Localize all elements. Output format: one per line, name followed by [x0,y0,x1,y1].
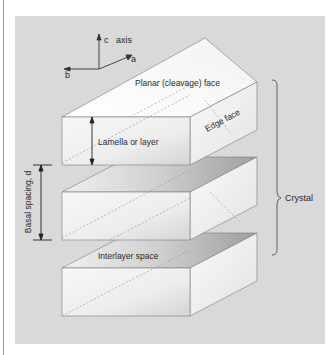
block-bottom-front-face [62,268,190,316]
planar-face-label: Planar (cleavage) face [135,78,220,88]
c-axis-arrowhead-icon [97,34,101,40]
arrow-down-icon [39,234,43,240]
a-axis-label: a [131,54,136,64]
axis-label: axis [116,35,133,45]
interlayer-space-label: Interlayer space [98,251,159,261]
block-middle-front-face [62,192,190,240]
crystal-label: Crystal [285,193,313,203]
c-axis-label: c [104,35,109,45]
lamella-label: Lamella or layer [98,137,159,147]
block-bottom [62,233,257,316]
block-top [62,38,257,165]
a-axis-line [99,57,128,69]
basal-spacing-arrow [33,165,52,240]
block-middle [62,157,257,240]
b-axis-label: b [65,70,70,80]
crystal-brace [272,80,281,255]
arrow-up-icon [39,165,43,171]
crystal-diagram: c axis a b Planar (cleavage) face Edge f… [0,0,336,355]
basal-spacing-label: Basal spacing, d [23,171,33,234]
